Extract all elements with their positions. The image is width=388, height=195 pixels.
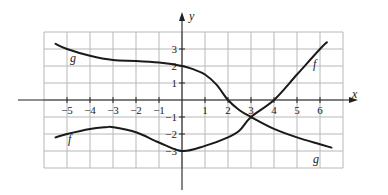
y-tick-label: −2 bbox=[165, 128, 177, 140]
axes bbox=[18, 12, 358, 190]
x-tick-label: 5 bbox=[294, 104, 300, 116]
y-tick-label: −1 bbox=[165, 111, 177, 123]
f-label-top: f bbox=[313, 57, 318, 71]
x-axis-label: x bbox=[351, 87, 358, 101]
y-tick-label: 3 bbox=[172, 43, 178, 55]
function-graph: −5−4−3−2−1123456321−1−2−3 x y g g f f bbox=[0, 0, 388, 195]
x-tick-label: −5 bbox=[61, 104, 73, 116]
x-tick-label: −4 bbox=[84, 104, 96, 116]
x-tick-label: −1 bbox=[153, 104, 165, 116]
y-tick-label: 1 bbox=[172, 77, 178, 89]
x-tick-label: 2 bbox=[225, 104, 231, 116]
y-axis-label: y bbox=[188, 9, 195, 23]
g-label-top: g bbox=[70, 51, 76, 65]
g-label-bottom: g bbox=[313, 152, 319, 166]
x-tick-label: 1 bbox=[202, 104, 208, 116]
y-axis-arrow-icon bbox=[179, 12, 185, 21]
x-tick-label: 4 bbox=[271, 104, 277, 116]
y-tick-label: 2 bbox=[172, 60, 178, 72]
x-tick-label: 6 bbox=[317, 104, 323, 116]
x-tick-label: −2 bbox=[130, 104, 142, 116]
x-tick-label: −3 bbox=[107, 104, 119, 116]
curve-g bbox=[56, 44, 332, 148]
